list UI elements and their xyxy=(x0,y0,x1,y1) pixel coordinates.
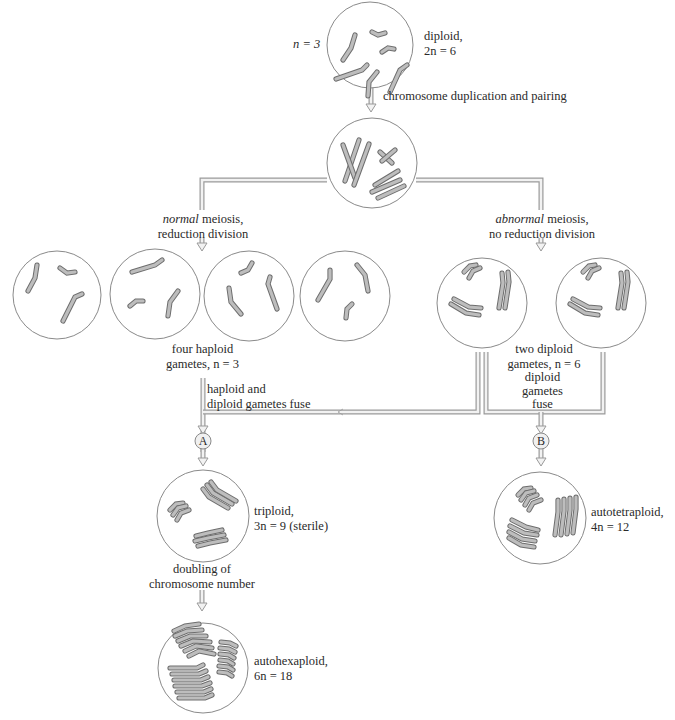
label-haploid-diploid-fuse: haploid and diploid gametes fuse xyxy=(207,382,310,412)
label-diploid: diploid, 2n = 6 xyxy=(424,29,463,59)
node-b-label: B xyxy=(534,434,548,449)
cell-triploid xyxy=(157,470,249,562)
label-autohexaploid: autohexaploid, 6n = 18 xyxy=(254,654,328,684)
label-triploid: triploid, 3n = 9 (sterile) xyxy=(254,504,328,534)
label-autotetraploid: autotetraploid, 4n = 12 xyxy=(591,505,664,535)
node-a-label: A xyxy=(196,434,210,449)
cell-autotetraploid xyxy=(494,472,586,564)
haploid-gametes xyxy=(13,249,390,341)
label-four-haploid: four haploid gametes, n = 3 xyxy=(150,342,255,372)
label-doubling: doubling of chromosome number xyxy=(140,562,264,592)
label-duplication: chromosome duplication and pairing xyxy=(383,89,567,104)
label-n3: n = 3 xyxy=(293,37,320,52)
cell-diploid xyxy=(327,2,413,96)
diploid-gametes xyxy=(437,258,646,348)
label-normal-meiosis: normal meiosis, reduction division xyxy=(148,212,258,242)
label-two-diploid: two diploid gametes, n = 6 xyxy=(494,342,594,372)
cell-paired xyxy=(327,118,417,208)
label-diploid-gametes-fuse: diploid gametes fuse xyxy=(505,371,580,412)
cell-autohexaploid xyxy=(158,623,248,713)
label-abnormal-meiosis: abnormal meiosis, no reduction division xyxy=(482,212,602,242)
